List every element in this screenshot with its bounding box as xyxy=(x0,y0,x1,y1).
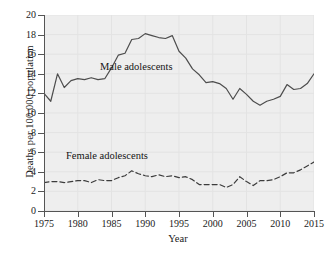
y-tick xyxy=(38,93,44,94)
y-tick xyxy=(38,191,44,192)
x-tick xyxy=(247,212,248,217)
x-tick xyxy=(314,212,315,217)
y-tick-label: 0 xyxy=(12,206,36,216)
y-axis-spine xyxy=(44,15,45,212)
y-tick-label: 8 xyxy=(12,128,36,138)
x-tick xyxy=(44,212,45,217)
y-tick xyxy=(38,74,44,75)
x-tick xyxy=(112,212,113,217)
y-tick xyxy=(38,35,44,36)
x-tick xyxy=(78,212,79,217)
x-axis-label: Year xyxy=(42,233,314,244)
y-tick xyxy=(38,54,44,55)
y-tick xyxy=(38,172,44,173)
y-tick-label: 10 xyxy=(12,108,36,118)
x-tick xyxy=(179,212,180,217)
x-tick-label: 2015 xyxy=(294,218,328,229)
y-tick-label: 20 xyxy=(12,10,36,20)
gridlines xyxy=(44,15,314,211)
y-tick xyxy=(38,133,44,134)
plot-canvas xyxy=(44,15,314,211)
y-tick-label: 4 xyxy=(12,167,36,177)
y-tick xyxy=(38,113,44,114)
y-tick-label: 2 xyxy=(12,186,36,196)
x-tick xyxy=(213,212,214,217)
chart-figure: Deaths per 100,000 population 0246810121… xyxy=(0,0,328,255)
plot-area xyxy=(44,15,314,211)
y-tick-label: 18 xyxy=(12,30,36,40)
y-tick xyxy=(38,152,44,153)
y-tick-label: 14 xyxy=(12,69,36,79)
y-tick-label: 6 xyxy=(12,147,36,157)
y-tick xyxy=(38,15,44,16)
series-annotation-male: Male adolescents xyxy=(100,61,173,72)
series-annotation-female: Female adolescents xyxy=(66,150,148,161)
x-tick xyxy=(145,212,146,217)
y-tick-label: 16 xyxy=(12,49,36,59)
x-tick xyxy=(280,212,281,217)
y-tick-label: 12 xyxy=(12,88,36,98)
